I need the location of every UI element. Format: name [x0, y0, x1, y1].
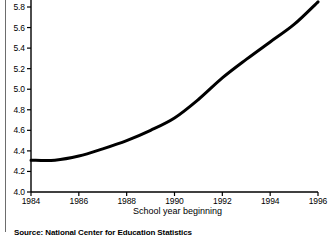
y-tick-label: 5.6: [3, 23, 25, 33]
chart-figure: 5.85.65.45.25.04.84.64.44.24.0 198419861…: [0, 0, 333, 243]
y-tick-label: 4.8: [3, 105, 25, 115]
y-tick-label: 4.2: [3, 166, 25, 176]
y-tick-label: 5.4: [3, 43, 25, 53]
y-tick-label: 5.2: [3, 64, 25, 74]
x-tick-label: 1994: [255, 196, 285, 206]
x-tick-label: 1986: [64, 196, 94, 206]
data-series-line: [31, 2, 318, 161]
x-axis-title: School year beginning: [0, 206, 333, 216]
x-tick-label: 1988: [112, 196, 142, 206]
x-tick-label: 1996: [303, 196, 333, 206]
y-tick-label: 4.6: [3, 125, 25, 135]
y-tick-label: 4.4: [3, 146, 25, 156]
x-tick-label: 1990: [160, 196, 190, 206]
x-axis-title-text: School year beginning: [133, 206, 222, 216]
x-tick-label: 1984: [16, 196, 46, 206]
y-tick-label: 5.0: [3, 84, 25, 94]
x-tick-label: 1992: [207, 196, 237, 206]
source-note: Source: National Center for Education St…: [14, 228, 192, 237]
y-tick-label: 5.8: [3, 2, 25, 12]
